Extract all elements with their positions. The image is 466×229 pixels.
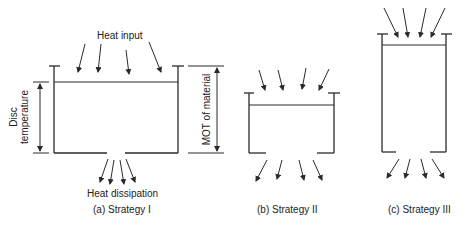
disc-temperature-dimension (33, 82, 49, 153)
caption-strategy-3: (c) Strategy III (388, 204, 451, 215)
heat-dissipation-label: Heat dissipation (87, 188, 158, 199)
heat-dissipation-arrows-1 (100, 159, 135, 184)
caption-strategy-1: (a) Strategy I (93, 204, 151, 215)
strategy-diagram (0, 0, 466, 229)
disc-temperature-label: Disc temperature (8, 87, 30, 147)
heat-dissipation-arrows-2 (256, 160, 322, 181)
strategy-2-container (244, 93, 340, 153)
heat-input-arrows-3 (384, 8, 445, 37)
heat-input-arrows-1 (78, 42, 161, 74)
heat-input-arrows-2 (259, 68, 329, 90)
strategy-3-container (377, 34, 452, 152)
strategy-1-container (49, 66, 184, 153)
disc-temperature-line1: Disc (8, 87, 19, 147)
heat-dissipation-arrows-3 (387, 159, 444, 178)
mot-of-material-label: MOT of material (201, 70, 212, 150)
disc-temperature-line2: temperature (19, 87, 30, 147)
heat-input-label: Heat input (97, 30, 143, 41)
caption-strategy-2: (b) Strategy II (257, 204, 318, 215)
